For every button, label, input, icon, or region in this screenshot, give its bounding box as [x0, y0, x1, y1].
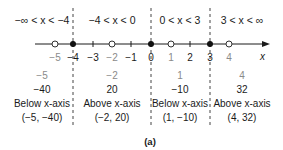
- position-1: Below x-axis: [14, 98, 70, 109]
- value-2: 20: [106, 84, 117, 95]
- value-3: −10: [172, 84, 189, 95]
- value-4: 32: [236, 84, 247, 95]
- zero-dot-0: [148, 41, 154, 47]
- figure-caption: (a): [144, 136, 156, 147]
- point-3: (1, −10): [163, 112, 198, 123]
- test-point-neg5: [52, 41, 58, 47]
- interval-label-2: −4 < x < 0: [89, 14, 136, 26]
- test-point-neg2: [109, 41, 115, 47]
- tick-label: −3: [87, 52, 98, 63]
- interval-label-3: 0 < x < 3: [160, 14, 201, 26]
- position-3: Below x-axis: [152, 98, 208, 109]
- tick-label: 0: [148, 52, 154, 63]
- value-1: −40: [34, 84, 51, 95]
- test-x-4: 4: [239, 70, 245, 81]
- position-4: Above x-axis: [213, 98, 270, 109]
- test-x-2: −2: [106, 70, 117, 81]
- tick-label: −2: [106, 52, 117, 63]
- zero-dot-3: [207, 41, 213, 47]
- zero-dot-neg4: [70, 41, 76, 47]
- interval-label-4: 3 < x < ∞: [221, 14, 264, 26]
- test-x-1: −5: [36, 70, 47, 81]
- test-x-3: 1: [177, 70, 183, 81]
- tick-label: −4: [67, 52, 78, 63]
- point-1: (−5, −40): [22, 112, 63, 123]
- axis-label-x: x: [260, 51, 265, 62]
- test-point-4: [226, 41, 232, 47]
- test-point-1: [168, 41, 174, 47]
- tick-label: −1: [125, 52, 136, 63]
- axis-arrow-icon: [262, 41, 270, 47]
- tick-label: 4: [226, 52, 232, 63]
- tick-label: 2: [187, 52, 193, 63]
- tick-label: 1: [168, 52, 174, 63]
- tick-label: 3: [207, 52, 213, 63]
- interval-label-1: −∞ < x < −4: [15, 14, 70, 26]
- point-4: (4, 32): [228, 112, 257, 123]
- point-2: (−2, 20): [95, 112, 130, 123]
- position-2: Above x-axis: [83, 98, 140, 109]
- tick-label: −5: [49, 52, 60, 63]
